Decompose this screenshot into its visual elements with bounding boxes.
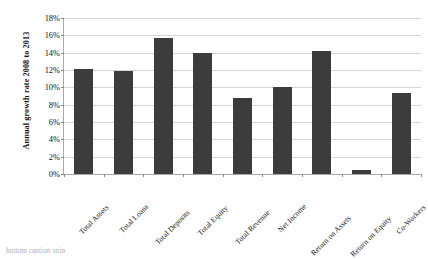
y-axis-tick-label: 0%: [22, 170, 60, 179]
y-axis-tick-label: 2%: [22, 152, 60, 161]
bars-layer: [64, 18, 421, 174]
y-axis-tick-label: 16%: [22, 31, 60, 40]
bar: [114, 71, 133, 174]
x-axis-tick-label: Net Income: [276, 202, 308, 234]
x-axis-tick-label: Co-Workers: [394, 203, 427, 236]
bar: [273, 87, 292, 174]
x-axis-tick-label: Total Revenue: [233, 208, 271, 246]
bar: [233, 98, 252, 174]
x-axis-tick-label: Total Loans: [117, 202, 150, 235]
bar: [193, 53, 212, 174]
bar: [312, 51, 331, 174]
x-axis-tick-labels: Total AssetsTotal LoansTotal DepositsTot…: [63, 176, 420, 250]
x-axis-tickmark: [421, 174, 422, 177]
bar: [352, 170, 371, 174]
y-axis-tick-label: 12%: [22, 66, 60, 75]
x-axis-tick-label: Total Assets: [77, 203, 110, 236]
y-axis-tick-labels: 18%16%14%12%10%8%6%4%2%0%: [22, 10, 60, 182]
x-axis-tick-label: Total Deposits: [153, 208, 191, 246]
y-axis-tick-label: 18%: [22, 14, 60, 23]
bar: [154, 38, 173, 174]
bar: [392, 93, 411, 174]
y-axis-tick-label: 14%: [22, 48, 60, 57]
y-axis-tick-label: 4%: [22, 135, 60, 144]
y-axis-tick-label: 8%: [22, 100, 60, 109]
plot-area: [63, 18, 421, 175]
caption-strip: bottom caption strip: [6, 246, 418, 253]
y-axis-tick-label: 6%: [22, 118, 60, 127]
x-axis-tick-label: Total Equity: [196, 203, 230, 237]
y-axis-tick-label: 10%: [22, 83, 60, 92]
bar: [74, 69, 93, 174]
